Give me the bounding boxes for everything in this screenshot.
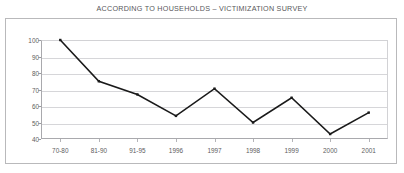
data-point-marker: [136, 93, 138, 95]
x-axis-tick-mark: [292, 139, 293, 142]
series-markers: [59, 39, 370, 135]
chart-figure: ACCORDING TO HOUSEHOLDS – VICTIMIZATION …: [0, 0, 404, 173]
x-axis-tick-mark: [215, 139, 216, 142]
y-axis-tick-label: 100: [5, 37, 39, 44]
x-axis-tick-mark: [330, 139, 331, 142]
x-axis-tick-label: 81-90: [91, 147, 107, 154]
y-axis: 405060708090100: [0, 40, 39, 139]
y-axis-tick-label: 80: [5, 70, 39, 77]
y-axis-tick-label: 60: [5, 103, 39, 110]
data-point-marker: [290, 97, 292, 99]
x-axis-tick-label: 1996: [169, 147, 183, 154]
x-axis-tick-mark: [369, 139, 370, 142]
y-axis-tick-label: 50: [5, 119, 39, 126]
x-axis-tick-mark: [176, 139, 177, 142]
x-axis-tick-mark: [137, 139, 138, 142]
y-axis-tick-label: 90: [5, 53, 39, 60]
x-axis-tick-label: 1999: [285, 147, 299, 154]
x-axis-tick-mark: [99, 139, 100, 142]
x-axis-tick-label: 1997: [207, 147, 221, 154]
x-axis-tick-label: 91-95: [129, 147, 145, 154]
y-axis-tick-label: 40: [5, 136, 39, 143]
data-point-marker: [98, 80, 100, 82]
data-point-marker: [175, 115, 177, 117]
x-axis-tick-mark: [253, 139, 254, 142]
data-point-marker: [368, 111, 370, 113]
series-line-victimization: [60, 40, 368, 134]
data-point-marker: [59, 39, 61, 41]
data-point-marker: [213, 87, 215, 89]
data-point-marker: [329, 133, 331, 135]
x-axis-tick-label: 2000: [323, 147, 337, 154]
data-point-marker: [252, 121, 254, 123]
y-axis-tick-label: 70: [5, 86, 39, 93]
chart-title: ACCORDING TO HOUSEHOLDS – VICTIMIZATION …: [0, 4, 404, 13]
x-axis-tick-mark: [60, 139, 61, 142]
x-axis-tick-label: 70-80: [52, 147, 68, 154]
data-series-layer: [41, 40, 388, 139]
x-axis-tick-label: 2001: [362, 147, 376, 154]
x-axis-tick-label: 1998: [246, 147, 260, 154]
x-axis: 70-8081-9091-95199619971998199920002001: [41, 139, 388, 161]
